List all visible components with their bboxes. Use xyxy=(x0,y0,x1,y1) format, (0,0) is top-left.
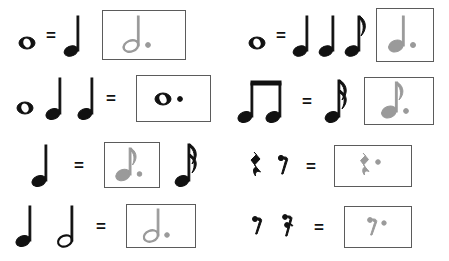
term-sixteenth-note xyxy=(324,76,352,126)
answer-box-r4c2[interactable] xyxy=(344,206,412,248)
equals-sign: = xyxy=(90,218,112,235)
equals-sign: = xyxy=(68,157,90,174)
equals-sign: = xyxy=(300,158,322,175)
term-whole-note xyxy=(14,13,40,57)
answer-dotted-half-note xyxy=(136,206,186,246)
term-sixteenth-rest xyxy=(280,209,298,245)
equals-sign: = xyxy=(308,219,330,236)
term-quarter-note xyxy=(14,202,38,250)
term-eighth-rest xyxy=(250,209,266,245)
term-quarter-note xyxy=(30,140,54,190)
term-quarter-rest xyxy=(248,146,266,186)
answer-box-r4c1[interactable] xyxy=(126,204,196,248)
term-beamed-eighth-pair xyxy=(236,76,290,126)
answer-dotted-quarter-rest xyxy=(353,149,393,183)
problem-r1c2: = xyxy=(244,8,434,62)
answer-dotted-whole-note xyxy=(147,84,199,112)
answer-dotted-eighth-note xyxy=(375,79,423,123)
answer-box-r3c1[interactable] xyxy=(104,142,160,188)
term-quarter-note xyxy=(44,73,68,123)
answer-box-r1c1[interactable] xyxy=(102,10,186,60)
problem-r3c1: = xyxy=(30,140,202,190)
problem-r4c2: = xyxy=(250,206,412,248)
answer-dotted-eighth-rest xyxy=(361,211,395,243)
answer-box-r2c1[interactable] xyxy=(136,75,211,122)
problem-r2c1: = xyxy=(12,73,211,123)
equals-sign: = xyxy=(270,27,292,44)
term-whole-note xyxy=(12,75,38,121)
term-quarter-note xyxy=(292,10,314,60)
worksheet-sheet: = = xyxy=(0,0,449,261)
term-quarter-note xyxy=(76,73,100,123)
answer-box-r2c2[interactable] xyxy=(364,77,434,125)
answer-dotted-half-note xyxy=(115,13,173,57)
term-whole-note xyxy=(244,13,270,57)
equals-sign: = xyxy=(296,93,318,110)
term-eighth-note xyxy=(344,10,368,60)
term-eighth-rest xyxy=(276,146,292,186)
answer-dotted-quarter-note xyxy=(382,12,428,58)
answer-box-r1c2[interactable] xyxy=(376,8,434,62)
answer-dotted-eighth-note xyxy=(110,145,154,185)
answer-box-r3c2[interactable] xyxy=(334,145,412,187)
term-sixteenth-note xyxy=(174,140,202,190)
term-quarter-note xyxy=(318,10,340,60)
problem-r3c2: = xyxy=(248,145,412,187)
term-half-note xyxy=(56,202,80,250)
problem-r4c1: = xyxy=(14,202,196,250)
equals-sign: = xyxy=(40,27,62,44)
term-quarter-note xyxy=(62,10,86,60)
problem-r2c2: = xyxy=(236,76,434,126)
equals-sign: = xyxy=(100,90,122,107)
problem-r1c1: = xyxy=(14,10,186,60)
